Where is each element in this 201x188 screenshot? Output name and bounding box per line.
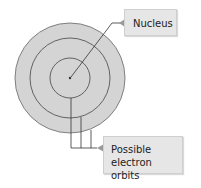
orbits-label-line2: electron orbits — [111, 156, 182, 182]
nucleus-label: Nucleus — [124, 9, 177, 36]
electron-orbits-label: Possible electron orbits — [103, 136, 183, 174]
nucleus-label-text: Nucleus — [133, 18, 173, 29]
nucleus-dot — [69, 77, 71, 79]
orbits-label-line1: Possible — [111, 143, 182, 156]
